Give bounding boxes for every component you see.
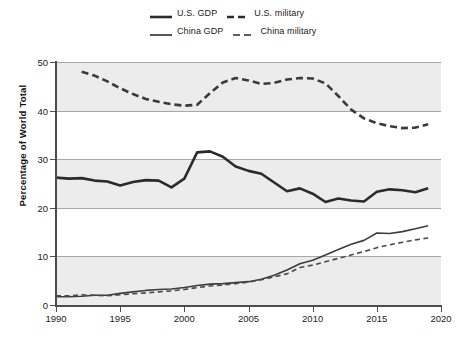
y-tick-mark — [50, 256, 55, 257]
legend-swatch-us-military — [227, 8, 249, 18]
x-tick-mark — [56, 306, 57, 312]
y-tick-label: 20 — [20, 202, 48, 213]
x-tick-mark — [184, 306, 185, 312]
series-line — [56, 226, 428, 297]
legend-label-us-military: U.S. military — [254, 8, 304, 18]
plot-area — [56, 62, 441, 305]
y-tick-label: 30 — [20, 154, 48, 165]
y-tick-mark — [50, 208, 55, 209]
x-tick-label: 2015 — [366, 313, 387, 324]
x-tick-mark — [249, 306, 250, 312]
x-tick-label: 1990 — [45, 313, 66, 324]
legend-label-us-gdp: U.S. GDP — [177, 8, 217, 18]
series-line — [56, 151, 428, 202]
legend-row-1: U.S. GDP U.S. military — [150, 4, 390, 22]
series-lines — [56, 62, 441, 305]
chart-legend: U.S. GDP U.S. military China GDP China m… — [150, 4, 390, 40]
y-tick-mark — [50, 159, 55, 160]
y-axis-title: Percentage of World Total — [17, 76, 28, 216]
x-tick-label: 2000 — [174, 313, 195, 324]
legend-item-us-gdp: U.S. GDP — [150, 8, 217, 18]
legend-item-china-gdp: China GDP — [150, 26, 223, 36]
x-tick-label: 2020 — [430, 313, 451, 324]
y-axis-line — [55, 61, 57, 306]
x-tick-mark — [441, 306, 442, 312]
y-tick-label: 0 — [20, 300, 48, 311]
series-line — [82, 72, 429, 128]
legend-row-2: China GDP China military — [150, 22, 390, 40]
series-line — [56, 238, 428, 296]
y-tick-mark — [50, 111, 55, 112]
legend-item-china-military: China military — [233, 26, 316, 36]
chart-figure: U.S. GDP U.S. military China GDP China m… — [0, 0, 461, 342]
x-tick-label: 1995 — [110, 313, 131, 324]
x-tick-label: 2005 — [238, 313, 259, 324]
y-tick-mark — [50, 305, 55, 306]
x-tick-mark — [377, 306, 378, 312]
legend-swatch-china-military — [233, 26, 255, 36]
x-tick-mark — [313, 306, 314, 312]
y-tick-label: 50 — [20, 57, 48, 68]
legend-swatch-us-gdp — [150, 8, 172, 18]
x-tick-label: 2010 — [302, 313, 323, 324]
legend-label-china-gdp: China GDP — [177, 26, 223, 36]
legend-label-china-military: China military — [260, 26, 316, 36]
legend-item-us-military: U.S. military — [227, 8, 304, 18]
x-tick-mark — [120, 306, 121, 312]
legend-swatch-china-gdp — [150, 26, 172, 36]
y-tick-label: 40 — [20, 105, 48, 116]
y-tick-label: 10 — [20, 251, 48, 262]
y-tick-mark — [50, 62, 55, 63]
